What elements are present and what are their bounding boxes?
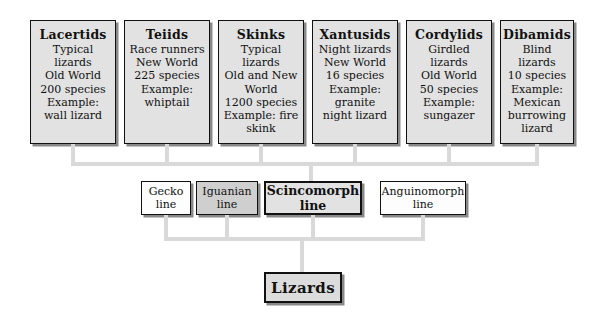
lineage-box-iguanian-line[interactable]: Iguanian line [196, 181, 258, 215]
connector-bus-upper [71, 162, 539, 166]
family-title: Skinks [237, 27, 285, 42]
connector-bus-to-lizards [300, 237, 304, 273]
family-detail-line: Race runners [129, 43, 204, 56]
root-box-lizards[interactable]: Lizards [264, 272, 342, 303]
connector-bus-to-scincomorph [309, 162, 313, 181]
family-detail-line: Girdled lizards [410, 43, 488, 69]
family-detail-line: New World [324, 56, 386, 69]
family-detail-line: burrowing [508, 109, 566, 122]
family-title: Lacertids [39, 27, 106, 42]
family-box-teiids[interactable]: Teiids Race runners New World 225 specie… [124, 20, 210, 144]
lineage-box-gecko-line[interactable]: Gecko line [141, 181, 191, 215]
family-detail-line: 225 species [134, 69, 200, 82]
family-detail-line: whiptail [144, 96, 189, 109]
family-detail-line: wall lizard [44, 109, 102, 122]
family-box-skinks[interactable]: Skinks Typical lizards Old and New World… [218, 20, 304, 144]
family-detail-line: Old World [421, 69, 477, 82]
lineage-box-anguinomorph-line[interactable]: Anguinomorph line [380, 181, 466, 215]
family-detail-line: Example: [141, 83, 193, 96]
family-detail-line: 200 species [40, 83, 106, 96]
family-detail-line: Old and New [225, 69, 298, 82]
connector-drop-iguanian-line [225, 215, 229, 237]
family-detail-line: 1200 species [225, 96, 298, 109]
family-box-dibamids[interactable]: Dibamids Blind lizards 10 species Exampl… [500, 20, 574, 144]
family-detail-line: Typical lizards [222, 43, 300, 69]
family-detail-line: Example: fire [224, 109, 299, 122]
connector-drop-anguinomorph-line [421, 215, 425, 237]
connector-drop-dibamids [535, 144, 539, 162]
root-label: Lizards [271, 279, 335, 297]
family-detail-line: Blind lizards [504, 43, 570, 69]
lineage-label: Scincomorph line [267, 183, 359, 213]
family-title: Dibamids [503, 27, 571, 42]
family-detail-line: lizard [521, 122, 553, 135]
family-detail-line: skink [246, 122, 276, 135]
family-detail-line: Mexican [513, 96, 560, 109]
family-detail-line: 10 species [508, 69, 567, 82]
family-detail-line: Example: [329, 83, 381, 96]
lineage-box-scincomorph-line[interactable]: Scincomorph line [264, 181, 362, 215]
family-detail-line: 50 species [420, 83, 479, 96]
lineage-label: Gecko line [146, 185, 186, 212]
family-title: Xantusids [319, 27, 390, 42]
family-detail-line: night lizard [323, 109, 387, 122]
lizard-phylogeny-diagram: Lacertids Typical lizards Old World 200 … [0, 0, 604, 326]
family-box-xantusids[interactable]: Xantusids Night lizards New World 16 spe… [312, 20, 398, 144]
connector-drop-scincomorph-line [311, 215, 315, 237]
connector-drop-lacertids [71, 144, 75, 162]
family-title: Cordylids [415, 27, 483, 42]
family-box-lacertids[interactable]: Lacertids Typical lizards Old World 200 … [30, 20, 116, 144]
connector-drop-xantusids [353, 144, 357, 162]
connector-drop-cordylids [447, 144, 451, 162]
connector-drop-skinks [259, 144, 263, 162]
family-detail-line: granite [335, 96, 375, 109]
family-detail-line: New World [136, 56, 198, 69]
connector-drop-teiids [165, 144, 169, 162]
connector-bus-lower [164, 237, 425, 241]
family-detail-line: World [245, 83, 278, 96]
family-detail-line: Old World [45, 69, 101, 82]
family-box-cordylids[interactable]: Cordylids Girdled lizards Old World 50 s… [406, 20, 492, 144]
family-detail-line: Example: [511, 83, 563, 96]
connector-drop-gecko-line [164, 215, 168, 237]
family-detail-line: Example: [47, 96, 99, 109]
lineage-label: Iguanian line [201, 185, 253, 212]
family-detail-line: Example: [423, 96, 475, 109]
family-title: Teiids [146, 27, 188, 42]
lineage-label: Anguinomorph line [382, 185, 465, 212]
family-detail-line: Typical lizards [34, 43, 112, 69]
family-detail-line: sungazer [424, 109, 475, 122]
family-detail-line: 16 species [326, 69, 385, 82]
family-detail-line: Night lizards [319, 43, 392, 56]
